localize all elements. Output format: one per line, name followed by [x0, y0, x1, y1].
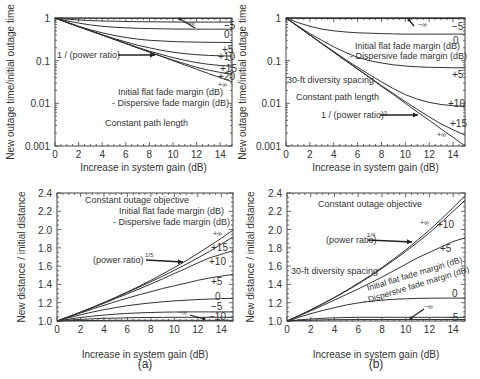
chart-a-top: 0246810121410.10.010.001Increase in syst…: [5, 4, 237, 173]
y-axis-label: New outage time/initial outage time: [5, 4, 16, 160]
series-label: 0: [452, 288, 458, 299]
series-label: +∞: [437, 131, 446, 138]
x-tick-label: 8: [379, 149, 385, 160]
annotation: Constant outage objective: [85, 195, 189, 205]
x-tick-label: 0: [284, 324, 290, 335]
annotation: Initial flat fade margin (dB): [118, 87, 223, 97]
arrow-label-exponent: 1/5: [145, 252, 154, 258]
x-tick-label: 12: [191, 149, 203, 160]
series-label: +15: [211, 242, 228, 253]
x-tick-label: 4: [331, 149, 337, 160]
series-line: [57, 251, 233, 321]
y-tick-label: 0.001: [256, 141, 281, 152]
y-tick-label: 1: [44, 13, 50, 24]
y-tick-label: 0.001: [25, 141, 50, 152]
x-axis-label: Increase in system gain (dB): [312, 162, 439, 173]
x-tick-label: 2: [78, 324, 84, 335]
annotation: Initial flat fade margin (dB): [119, 206, 224, 216]
caption-b: (b): [369, 357, 384, 371]
x-tick-label: 0: [54, 324, 60, 335]
x-tick-label: 8: [379, 324, 385, 335]
leader-dot-icon: [203, 318, 206, 321]
y-tick-label: 0.1: [267, 56, 281, 67]
x-tick-label: 0: [283, 149, 289, 160]
x-tick-label: 14: [448, 149, 460, 160]
x-tick-label: 14: [448, 324, 460, 335]
series-line: [286, 18, 465, 34]
caption-a: (a): [138, 357, 153, 371]
leader-dot-icon: [408, 19, 411, 22]
x-tick-label: 4: [101, 324, 107, 335]
chart-b-bottom: 024681012141.01.21.41.61.82.02.22.4Incre…: [245, 188, 470, 360]
series-label: −5: [447, 312, 459, 323]
x-tick-label: 14: [215, 149, 227, 160]
y-tick-label: 1.0: [268, 316, 282, 327]
y-tick-label: 1.8: [38, 243, 52, 254]
x-tick-label: 0: [52, 149, 58, 160]
x-tick-label: 14: [216, 324, 228, 335]
x-tick-label: 6: [355, 149, 361, 160]
annotation: 30-ft diversity spacing: [287, 75, 374, 85]
x-axis-label: Increase in system gain (dB): [80, 162, 207, 173]
series-label: 0: [224, 29, 230, 40]
x-tick-label: 10: [169, 324, 181, 335]
y-tick-label: 1.4: [38, 279, 52, 290]
annotation: - Dispersive fade margin (dB): [350, 51, 467, 61]
arrow-label-exponent: 1/4: [367, 232, 376, 238]
annotation: Constant path length: [105, 118, 188, 128]
x-tick-label: 6: [123, 149, 129, 160]
chart-b-top: 0246810121410.10.010.001Increase in syst…: [237, 4, 467, 173]
y-tick-label: 2.0: [38, 225, 52, 236]
y-tick-label: 1.4: [268, 279, 282, 290]
y-tick-label: 0.01: [262, 98, 282, 109]
arrow-icon: [146, 260, 183, 262]
series-label: +10: [437, 219, 454, 230]
y-tick-label: 2.2: [38, 206, 52, 217]
annotation: Constant outage objective: [318, 199, 422, 209]
x-tick-label: 6: [355, 324, 361, 335]
annotation: Initial flat fade margin (dB): [355, 41, 460, 51]
series-label: −∞: [424, 303, 433, 310]
x-tick-label: 6: [125, 324, 131, 335]
annotation: - Dispersive fade margin (dB): [112, 98, 229, 108]
series-label: +5: [452, 69, 464, 80]
x-tick-label: 10: [400, 149, 412, 160]
y-tick-label: 2.0: [268, 225, 282, 236]
series-label: +10: [448, 98, 465, 109]
x-tick-label: 4: [332, 324, 338, 335]
series-label: +5: [440, 243, 452, 254]
y-tick-label: 1.6: [268, 261, 282, 272]
arrow-label: (power ratio): [93, 255, 144, 265]
leader-line-icon: [411, 309, 424, 318]
annotation: Constant path length: [296, 92, 379, 102]
y-axis-label: New distance / initial distance: [16, 191, 27, 323]
y-tick-label: 0.01: [31, 98, 51, 109]
arrow-label: 1 / (power ratio): [57, 50, 120, 60]
y-tick-label: 2.2: [268, 206, 282, 217]
x-tick-label: 12: [192, 324, 204, 335]
series-label: +∞: [420, 219, 429, 226]
leader-dot-icon: [410, 317, 413, 320]
x-tick-label: 2: [307, 149, 313, 160]
y-tick-label: 1: [275, 13, 281, 24]
series-label: +∞: [213, 230, 222, 237]
x-tick-label: 4: [99, 149, 105, 160]
annotation: - Dispersive fade margin (dB): [113, 217, 230, 227]
leader-dot-icon: [179, 18, 182, 21]
x-tick-label: 2: [76, 149, 82, 160]
annotation: 30-ft diversity spacing: [291, 266, 378, 276]
series-label: +15: [450, 118, 467, 129]
series-label: +10: [218, 51, 235, 62]
arrowhead-icon: [413, 113, 418, 118]
x-tick-label: 12: [424, 149, 436, 160]
x-tick-label: 8: [147, 149, 153, 160]
x-tick-label: 8: [148, 324, 154, 335]
series-label: −5: [452, 21, 464, 32]
series-label: +5: [211, 276, 223, 287]
series-label: −∞: [418, 21, 427, 28]
arrowhead-icon: [407, 239, 412, 244]
arrow-label: 1 / (power ratio)²: [321, 110, 387, 120]
y-tick-label: 2.4: [268, 188, 282, 199]
y-tick-label: 1.0: [38, 316, 52, 327]
y-tick-label: 2.4: [38, 188, 52, 199]
